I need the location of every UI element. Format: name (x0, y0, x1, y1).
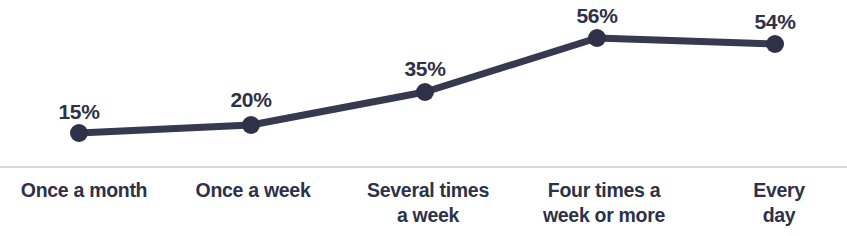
x-axis-tick-label: Four times a week or more (543, 178, 665, 228)
data-label: 54% (754, 10, 795, 34)
data-point-marker (416, 83, 434, 101)
x-axis-tick-label: Once a week (196, 178, 311, 203)
x-axis-tick-label: Several times a week (367, 178, 489, 228)
data-point-marker (766, 35, 784, 53)
data-point-marker (242, 116, 260, 134)
chart-plot-area (0, 0, 847, 168)
x-axis-tick-label: Once a month (21, 178, 147, 203)
x-axis-labels: Once a month Once a week Several times a… (0, 178, 847, 236)
data-label: 20% (230, 88, 271, 112)
x-axis-tick-label: Every day (745, 178, 813, 228)
line-chart: 15% 20% 35% 56% 54% Once a month Once a … (0, 0, 847, 236)
data-label: 35% (404, 57, 445, 81)
data-point-marker (70, 124, 88, 142)
data-label: 56% (576, 4, 617, 28)
data-point-marker (588, 29, 606, 47)
data-label: 15% (58, 100, 99, 124)
x-axis-rule (0, 166, 847, 168)
